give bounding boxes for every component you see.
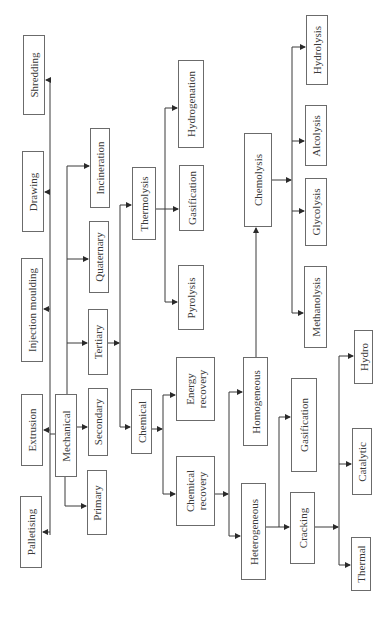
node-label: Mechanical	[60, 410, 72, 461]
node-thermal: Thermal	[351, 537, 371, 591]
node-quaternary: Quaternary	[89, 221, 109, 293]
node-gasification-heterogeneous: Gasification	[291, 378, 317, 472]
node-cracking: Cracking	[290, 492, 315, 564]
node-label: Drawing	[27, 172, 39, 211]
node-label: Glycolysis	[310, 188, 322, 235]
node-glycolysis: Glycolysis	[305, 178, 327, 246]
node-label: Chemolysis	[252, 154, 264, 206]
node-homogeneous: Homogeneous	[243, 357, 268, 446]
node-palletising: Palletising	[20, 496, 42, 568]
node-gasification-thermolysis: Gasification	[179, 165, 204, 231]
node-heterogeneous: Heterogeneous	[241, 483, 266, 580]
node-label: Tertiary	[92, 325, 104, 360]
node-extrusion: Extrusion	[21, 394, 43, 466]
node-label: Incineration	[94, 141, 106, 194]
node-label: Methanolysis	[310, 277, 322, 336]
node-label: Injection moulding	[26, 268, 38, 352]
node-label: Chemical	[136, 400, 148, 442]
recycling-classification-diagram: Palletising Extrusion Injection moulding…	[0, 0, 388, 643]
node-incineration: Incineration	[90, 128, 110, 208]
node-chemolysis: Chemolysis	[244, 133, 272, 227]
node-label: Palletising	[25, 509, 37, 555]
node-primary: Primary	[87, 470, 107, 535]
node-label: Thermal	[355, 545, 367, 582]
node-pyrolysis: Pyrolysis	[178, 265, 204, 330]
node-label: Hydro	[358, 343, 370, 371]
node-label: Pyrolysis	[185, 277, 197, 318]
node-label: Quaternary	[93, 232, 105, 281]
node-chemical-recovery: Chemical recovery	[176, 456, 215, 526]
node-thermolysis: Thermolysis	[132, 167, 156, 240]
node-label: Catalytic	[356, 442, 368, 482]
node-label: Hydrolysis	[311, 26, 323, 74]
node-label: Primary	[91, 485, 103, 520]
node-alcolysis: Alcolysis	[305, 105, 327, 166]
node-hydrolysis: Hydrolysis	[306, 15, 328, 85]
node-label: Chemical recovery	[184, 470, 208, 512]
node-label: Energy recovery	[184, 370, 208, 408]
node-label: Shredding	[28, 52, 40, 97]
node-tertiary: Tertiary	[88, 309, 108, 375]
node-label: Alcolysis	[310, 115, 322, 157]
node-label: Cracking	[297, 508, 309, 548]
node-label: Hydrogenation	[185, 71, 197, 137]
node-drawing: Drawing	[22, 151, 44, 232]
node-secondary: Secondary	[88, 388, 108, 456]
node-hydro: Hydro	[354, 330, 373, 384]
node-shredding: Shredding	[23, 35, 45, 115]
node-methanolysis: Methanolysis	[304, 266, 327, 348]
node-label: Secondary	[92, 399, 104, 445]
node-mechanical: Mechanical	[55, 394, 77, 477]
node-label: Heterogeneous	[248, 499, 260, 565]
node-label: Gasification	[186, 171, 198, 225]
node-injection-moulding: Injection moulding	[21, 258, 43, 362]
node-chemical: Chemical	[131, 389, 152, 454]
node-label: Extrusion	[26, 409, 38, 452]
node-label: Gasification	[298, 398, 310, 452]
node-label: Homogeneous	[250, 370, 262, 434]
node-energy-recovery: Energy recovery	[176, 357, 215, 421]
node-catalytic: Catalytic	[352, 428, 372, 495]
node-hydrogenation: Hydrogenation	[178, 60, 204, 148]
node-label: Thermolysis	[138, 176, 150, 231]
